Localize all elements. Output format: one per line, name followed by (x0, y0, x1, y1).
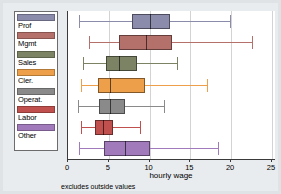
legend-swatch (17, 14, 55, 21)
legend-label: Prof (17, 21, 55, 30)
plot-frame (67, 11, 275, 159)
whisker-high-line (125, 106, 164, 107)
legend-swatch (17, 32, 55, 39)
whisker-high-line (145, 85, 207, 86)
whisker-low-cap (79, 15, 80, 28)
x-axis: 0510152025 (67, 159, 275, 160)
whisker-low-line (81, 85, 98, 86)
legend-label: Sales (17, 58, 55, 67)
x-tick (271, 159, 272, 162)
whisker-low-cap (81, 121, 82, 134)
legend-swatch (17, 88, 55, 95)
x-tick (149, 159, 150, 162)
whisker-low-line (89, 42, 118, 43)
whisker-low-cap (89, 36, 90, 49)
whisker-low-cap (81, 79, 82, 92)
chart-legend: ProfMgmtSalesCler.Operat.LaborOther (14, 11, 58, 151)
legend-label: Other (17, 131, 55, 140)
chart-figure: ProfMgmtSalesCler.Operat.LaborOther 0510… (0, 0, 281, 194)
legend-label: Operat. (17, 95, 55, 104)
whisker-high-line (170, 21, 230, 22)
plot-region (67, 11, 275, 159)
boxplot-row-labor[interactable] (68, 117, 276, 138)
whisker-low-cap (83, 57, 84, 70)
chart-inner-canvas: ProfMgmtSalesCler.Operat.LaborOther 0510… (3, 3, 278, 191)
legend-label: Labor (17, 113, 55, 122)
whisker-high-line (137, 63, 177, 64)
legend-swatch (17, 69, 55, 76)
median-line (110, 78, 111, 93)
whisker-low-line (79, 21, 132, 22)
legend-label: Cler. (17, 76, 55, 85)
box-iqr (99, 99, 125, 114)
x-tick (108, 159, 109, 162)
whisker-high-line (113, 127, 140, 128)
chart-footnote: excludes outside values (61, 183, 135, 190)
x-axis-title: hourly wage (67, 171, 275, 180)
boxplot-row-operat[interactable] (68, 96, 276, 117)
whisker-high-cap (252, 36, 253, 49)
whisker-high-line (172, 42, 252, 43)
legend-item-labor[interactable]: Labor (17, 106, 55, 124)
whisker-low-line (83, 63, 106, 64)
median-line (146, 35, 147, 50)
x-tick (230, 159, 231, 162)
x-tick (189, 159, 190, 162)
whisker-high-cap (177, 57, 178, 70)
legend-item-other[interactable]: Other (17, 124, 55, 142)
median-line (110, 99, 111, 114)
boxplot-row-prof[interactable] (68, 11, 276, 32)
whisker-low-line (78, 106, 99, 107)
whisker-low-line (81, 127, 95, 128)
box-iqr (98, 78, 145, 93)
whisker-high-cap (230, 15, 231, 28)
whisker-high-line (150, 148, 219, 149)
legend-swatch (17, 124, 55, 131)
box-iqr (104, 141, 150, 156)
boxplot-row-mgmt[interactable] (68, 32, 276, 53)
median-line (125, 141, 126, 156)
whisker-low-cap (79, 142, 80, 155)
whisker-low-line (79, 148, 104, 149)
median-line (150, 14, 151, 29)
x-tick (67, 159, 68, 162)
median-line (103, 120, 104, 135)
legend-swatch (17, 106, 55, 113)
boxplot-row-other[interactable] (68, 138, 276, 159)
legend-item-mgmt[interactable]: Mgmt (17, 32, 55, 50)
legend-item-cler[interactable]: Cler. (17, 69, 55, 87)
whisker-high-cap (218, 142, 219, 155)
whisker-high-cap (164, 100, 165, 113)
boxplot-row-cler[interactable] (68, 75, 276, 96)
legend-swatch (17, 51, 55, 58)
whisker-high-cap (207, 79, 208, 92)
legend-item-operat[interactable]: Operat. (17, 88, 55, 106)
box-iqr (106, 56, 138, 71)
legend-item-sales[interactable]: Sales (17, 51, 55, 69)
median-line (119, 56, 120, 71)
boxplot-row-sales[interactable] (68, 53, 276, 74)
whisker-high-cap (140, 121, 141, 134)
legend-item-prof[interactable]: Prof (17, 14, 55, 32)
box-iqr (132, 14, 170, 29)
legend-label: Mgmt (17, 39, 55, 48)
whisker-low-cap (78, 100, 79, 113)
